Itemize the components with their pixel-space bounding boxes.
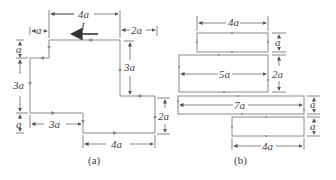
loop-rect-1	[197, 33, 268, 52]
rect3-width: 7a	[234, 99, 246, 111]
wire-direction-marks-b	[177, 32, 305, 137]
caption-b: (b)	[234, 154, 247, 167]
dim-top-width: 4a	[78, 8, 90, 20]
figure-a: I 4a a 2a a 3a a	[12, 8, 170, 167]
rect3-height: a	[310, 98, 316, 110]
rect1-width: 4a	[228, 16, 240, 28]
diagram-canvas: I 4a a 2a a 3a a	[0, 0, 336, 180]
dim-bottom-width: 4a	[111, 138, 123, 150]
dim-bottom-left-width: 3a	[48, 118, 61, 130]
dim-top-left-offset: a	[36, 24, 42, 36]
dim-right-inner-height: 3a	[123, 61, 136, 73]
dim-top-right-offset: 2a	[131, 24, 143, 36]
wire-direction-marks	[28, 38, 157, 135]
rect4-width: 4a	[262, 140, 274, 152]
current-label: I	[80, 20, 86, 32]
rect1-height: a	[275, 36, 281, 48]
rect2-width: 5a	[219, 68, 231, 80]
rect4-height: a	[310, 120, 316, 132]
dim-left-bottom-height: a	[16, 118, 22, 130]
figure-b: 4a a 5a 2a 7a a 4a	[177, 16, 320, 167]
rect2-height: 2a	[272, 68, 284, 80]
caption-a: (a)	[88, 154, 101, 167]
dim-right-height: 2a	[158, 110, 170, 122]
dim-left-height: 3a	[12, 79, 25, 91]
loop-rect-4	[232, 117, 304, 136]
dim-left-top-height: a	[16, 43, 22, 55]
